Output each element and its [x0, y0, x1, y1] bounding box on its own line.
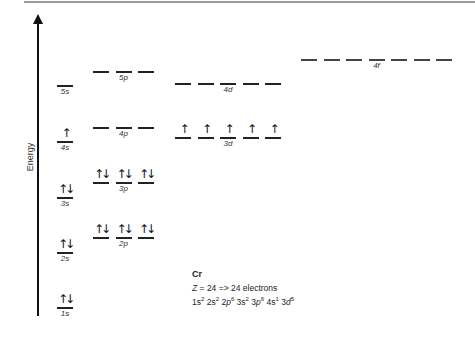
orbital-2p-box-1	[93, 237, 109, 239]
orbital-4f-box-7	[436, 59, 452, 61]
top-border	[24, 1, 475, 3]
spin-up-electron-icon: ↑	[198, 123, 214, 135]
atomic-number-line: Z = 24 => 24 electrons	[192, 283, 277, 293]
config-term-3d: 3d5	[281, 297, 294, 307]
orbital-4f-box-3	[346, 59, 362, 61]
energy-axis-label: Energy	[25, 135, 35, 179]
orbital-3d-box-1	[175, 137, 191, 139]
paired-electrons-icon: ↑↓	[57, 183, 73, 195]
orbital-4f-box-2	[324, 59, 340, 61]
orbital-4d-box-5	[265, 83, 281, 85]
orbital-label-4d: 4d	[213, 85, 243, 94]
orbital-label-1s: 1s	[50, 309, 80, 318]
orbital-label-3d: 3d	[213, 139, 243, 148]
paired-electrons-icon: ↑↓	[138, 168, 154, 180]
orbital-4f-box-6	[414, 59, 430, 61]
config-term-2s: 2s2	[207, 297, 219, 307]
paired-electrons-icon: ↑↓	[116, 168, 132, 180]
orbital-4f-box-1	[301, 59, 317, 61]
orbital-label-3p: 3p	[109, 184, 139, 193]
orbital-label-3s: 3s	[50, 199, 80, 208]
orbital-2p-box-3	[138, 237, 154, 239]
orbital-label-5p: 5p	[109, 73, 139, 82]
orbital-3p-box-1	[93, 182, 109, 184]
config-term-4s: 4s1	[266, 297, 278, 307]
spin-up-electron-icon: ↑	[265, 123, 281, 135]
orbital-3p-box-3	[138, 182, 154, 184]
orbital-label-4s: 4s	[50, 143, 80, 152]
orbital-label-4f: 4f	[362, 61, 392, 70]
paired-electrons-icon: ↑↓	[93, 223, 109, 235]
orbital-label-2s: 2s	[50, 254, 80, 263]
config-term-3s: 3s2	[237, 297, 249, 307]
paired-electrons-icon: ↑↓	[116, 223, 132, 235]
orbital-3d-box-4	[243, 137, 259, 139]
energy-axis	[37, 22, 39, 316]
element-symbol: Cr	[192, 269, 202, 279]
electron-configuration: 1s2 2s2 2p6 3s2 3p6 4s1 3d5	[192, 297, 294, 307]
orbital-3d-box-5	[265, 137, 281, 139]
spin-up-electron-icon: ↑	[220, 123, 236, 135]
orbital-4p-box-3	[138, 127, 154, 129]
orbital-4d-box-1	[175, 83, 191, 85]
paired-electrons-icon: ↑↓	[93, 168, 109, 180]
spin-up-electron-icon: ↑	[175, 123, 191, 135]
spin-up-electron-icon: ↑	[243, 123, 259, 135]
orbital-label-2p: 2p	[109, 239, 139, 248]
orbital-label-5s: 5s	[50, 87, 80, 96]
orbital-5p-box-3	[138, 71, 154, 73]
config-term-2p: 2p6	[221, 297, 234, 307]
orbital-label-4p: 4p	[109, 129, 139, 138]
orbital-4d-box-2	[198, 83, 214, 85]
z-line-rest: = 24 => 24 electrons	[197, 283, 277, 293]
paired-electrons-icon: ↑↓	[57, 238, 73, 250]
config-term-1s: 1s2	[192, 297, 204, 307]
spin-up-electron-icon: ↑	[57, 127, 73, 139]
paired-electrons-icon: ↑↓	[57, 293, 73, 305]
orbital-4f-box-5	[391, 59, 407, 61]
orbital-5p-box-1	[93, 71, 109, 73]
orbital-4p-box-1	[93, 127, 109, 129]
orbital-4d-box-4	[243, 83, 259, 85]
paired-electrons-icon: ↑↓	[138, 223, 154, 235]
config-term-3p: 3p6	[251, 297, 264, 307]
orbital-3d-box-2	[198, 137, 214, 139]
